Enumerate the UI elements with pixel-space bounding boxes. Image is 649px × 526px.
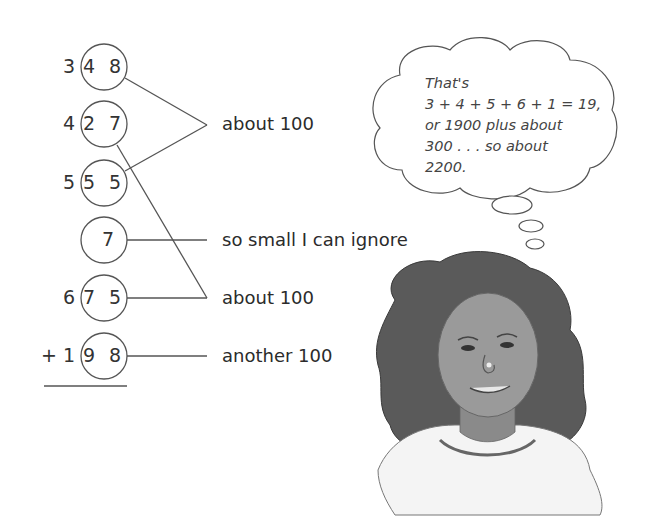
hundreds-digit-row-6: + 1 <box>31 344 75 366</box>
hundreds-digit-row-1: 3 <box>35 55 75 77</box>
thought-line-4: 300 . . . so about <box>425 136 625 157</box>
estimation-illustration: 3 4 8 4 2 7 5 5 5 7 6 7 5 + 1 9 8 about … <box>0 0 649 526</box>
circled-digits-row-1: 4 8 <box>81 55 127 77</box>
hundreds-digit-row-3: 5 <box>35 171 75 193</box>
circled-digits-row-4: 7 <box>88 228 118 250</box>
circled-digits-row-2: 2 7 <box>81 112 127 134</box>
thought-line-5: 2200. <box>425 157 625 178</box>
thought-line-1: That's <box>425 73 625 94</box>
circled-digits-row-5: 7 5 <box>81 286 127 308</box>
label-so-small: so small I can ignore <box>222 229 408 250</box>
circled-digits-row-6: 9 8 <box>81 344 127 366</box>
thought-line-3: or 1900 plus about <box>425 115 625 136</box>
label-about-100-second: about 100 <box>222 287 314 308</box>
hundreds-digit-row-5: 6 <box>35 286 75 308</box>
circled-digits-row-3: 5 5 <box>81 171 127 193</box>
label-another-100: another 100 <box>222 345 332 366</box>
label-about-100-first: about 100 <box>222 113 314 134</box>
hundreds-digit-row-2: 4 <box>35 112 75 134</box>
thought-bubble-text: That's 3 + 4 + 5 + 6 + 1 = 19, or 1900 p… <box>425 73 625 178</box>
thought-line-2: 3 + 4 + 5 + 6 + 1 = 19, <box>425 94 625 115</box>
girl-illustration <box>376 252 601 515</box>
